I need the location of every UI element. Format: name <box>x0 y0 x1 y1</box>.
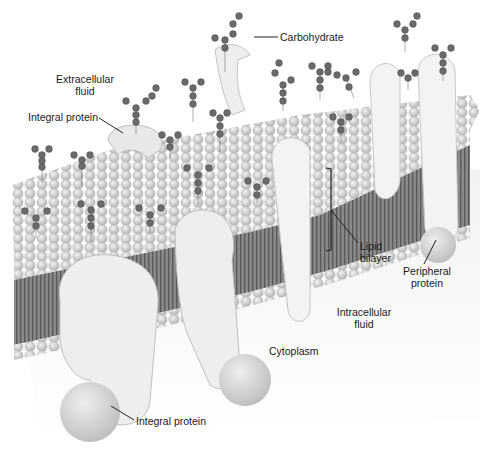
label-peripheral-protein: Peripheral protein <box>397 265 457 289</box>
label-extracellular-fluid: Extracellular fluid <box>50 73 120 97</box>
label-peripheral-line1: Peripheral <box>397 265 457 277</box>
label-intracellular-line1: Intracellular <box>333 306 395 318</box>
label-carbohydrate: Carbohydrate <box>280 31 344 43</box>
label-lipid-line1: Lipid <box>360 240 391 252</box>
membrane-diagram: Carbohydrate Extracellular fluid Integra… <box>0 0 489 467</box>
integral-protein-middle-globule <box>219 354 271 406</box>
membrane-illustration <box>0 0 489 467</box>
label-integral-protein-bottom: Integral protein <box>136 415 206 427</box>
label-cytoplasm: Cytoplasm <box>269 345 319 357</box>
integral-protein-left-globule <box>60 382 120 442</box>
integral-protein-far-right <box>418 54 458 241</box>
label-extracellular-line2: fluid <box>50 85 120 97</box>
label-lipid-bilayer: Lipid bilayer <box>360 240 391 264</box>
label-lipid-line2: bilayer <box>360 252 391 264</box>
peripheral-protein <box>420 227 456 263</box>
label-integral-protein-top: Integral protein <box>28 111 98 123</box>
protein-hook <box>215 45 250 115</box>
label-intracellular-fluid: Intracellular fluid <box>333 306 395 330</box>
integral-protein-right <box>370 64 400 199</box>
label-peripheral-line2: protein <box>397 277 457 289</box>
label-extracellular-line1: Extracellular <box>50 73 120 85</box>
label-intracellular-line2: fluid <box>333 318 395 330</box>
